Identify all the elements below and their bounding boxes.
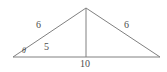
base-angle-theta-label: θ	[22, 47, 26, 55]
base-length-label: 10	[80, 59, 90, 69]
right-side-length-label: 6	[124, 20, 129, 30]
left-side-length-label: 6	[36, 20, 41, 30]
base-half-length-label: 5	[44, 42, 49, 52]
geometry-figure: 6 6 5 10 θ	[0, 0, 167, 72]
triangle-right-side	[86, 8, 160, 57]
